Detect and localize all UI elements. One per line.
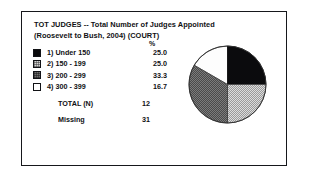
legend: 1) Under 150 25.0 2) 150 - 199 25.0 3) 2… <box>33 47 183 92</box>
missing-row: Missing 31 <box>33 111 183 127</box>
pie-slice-1 <box>228 46 267 85</box>
list-item: 4) 300 - 399 16.7 <box>33 81 183 92</box>
legend-label: 4) 300 - 399 <box>47 82 143 91</box>
legend-label: 1) Under 150 <box>47 48 143 57</box>
legend-label: 3) 200 - 299 <box>47 71 143 80</box>
legend-percent: 25.0 <box>143 59 177 68</box>
missing-label: Missing <box>33 115 129 124</box>
title-line-1: TOT JUDGES -- Total Number of Judges App… <box>34 20 278 31</box>
legend-percent: 16.7 <box>143 82 177 91</box>
legend-swatch-icon <box>33 49 41 57</box>
list-item: 2) 150 - 199 25.0 <box>33 58 183 69</box>
total-label: TOTAL (N) <box>33 99 129 108</box>
pie-chart <box>175 32 280 137</box>
legend-percent: 33.3 <box>143 71 177 80</box>
legend-swatch-icon <box>33 60 41 68</box>
total-value: 12 <box>129 99 163 108</box>
legend-percent: 25.0 <box>143 48 177 57</box>
pie-slice-2 <box>228 85 267 124</box>
total-row: TOTAL (N) 12 <box>33 95 183 111</box>
list-item: 1) Under 150 25.0 <box>33 47 183 58</box>
missing-value: 31 <box>129 115 163 124</box>
chart-panel: TOT JUDGES -- Total Number of Judges App… <box>21 11 287 166</box>
legend-swatch-icon <box>33 71 41 79</box>
pie-chart-svg <box>175 32 280 137</box>
list-item: 3) 200 - 299 33.3 <box>33 70 183 81</box>
legend-swatch-icon <box>33 83 41 91</box>
totals-section: TOTAL (N) 12 Missing 31 <box>33 95 183 127</box>
percent-column-header: % <box>135 40 169 47</box>
legend-label: 2) 150 - 199 <box>47 59 143 68</box>
